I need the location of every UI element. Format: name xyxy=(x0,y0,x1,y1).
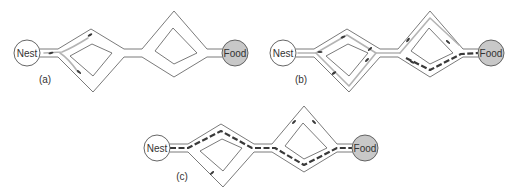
food-node: Food xyxy=(478,40,504,66)
ant-icon xyxy=(445,39,450,44)
nest-node: Nest xyxy=(14,40,40,66)
ant-icon xyxy=(317,51,322,53)
panel-b: Nest Food (b) xyxy=(270,11,504,92)
maze-walls xyxy=(170,106,352,187)
ant-colony-path-diagram: Nest Food (a) Nest Food (b) xyxy=(0,0,519,195)
pheromone-trail-heavy xyxy=(406,53,478,70)
panel-c: Nest Food (c) xyxy=(144,106,378,187)
panel-label-a: (a) xyxy=(39,74,51,85)
nest-node: Nest xyxy=(144,135,170,161)
exploration-trail-upper xyxy=(44,38,88,53)
food-label: Food xyxy=(224,48,247,59)
food-node: Food xyxy=(352,135,378,161)
ant-icon xyxy=(87,33,93,38)
ant-icon xyxy=(209,170,214,175)
food-node: Food xyxy=(222,40,248,66)
panel-a: Nest Food (a) xyxy=(14,11,248,92)
nest-node: Nest xyxy=(270,40,296,66)
exploration-trail-lower xyxy=(60,53,78,72)
food-label: Food xyxy=(354,143,377,154)
panel-label-b: (b) xyxy=(295,74,307,85)
maze-walls xyxy=(40,11,222,92)
nest-label: Nest xyxy=(17,48,38,59)
food-label: Food xyxy=(480,48,503,59)
panel-label-c: (c) xyxy=(176,171,188,182)
trail-first-diamond-lower xyxy=(316,53,376,86)
nest-label: Nest xyxy=(273,48,294,59)
maze-walls xyxy=(296,11,478,92)
nest-label: Nest xyxy=(147,143,168,154)
